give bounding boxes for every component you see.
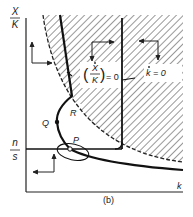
point-p <box>68 147 72 151</box>
ns-label-numerator: n <box>12 137 18 148</box>
y-axis-label-numerator: X <box>11 6 19 17</box>
ns-label-denominator: s <box>13 151 18 162</box>
label-q: Q <box>42 118 49 128</box>
xk-label-suffix: = 0 <box>106 72 119 82</box>
k-dot-zero-label: k = 0 <box>146 68 166 78</box>
paren-right: ) <box>100 66 105 83</box>
x-axis-label: k <box>177 181 182 191</box>
xk-label-denominator: K <box>92 75 99 85</box>
paren-left: ( <box>83 66 89 83</box>
label-r: R <box>70 108 77 118</box>
panel-label: (b) <box>103 195 114 205</box>
y-axis-label-denominator: K <box>12 19 20 30</box>
xk-label-numerator: X <box>91 63 99 73</box>
phase-diagram: X K n s ( X K ) = 0 k = 0 R Q P k (b) <box>0 0 193 217</box>
label-p: P <box>73 135 79 145</box>
point-q <box>55 120 59 124</box>
direction-arrows-bottom-left <box>33 154 56 174</box>
